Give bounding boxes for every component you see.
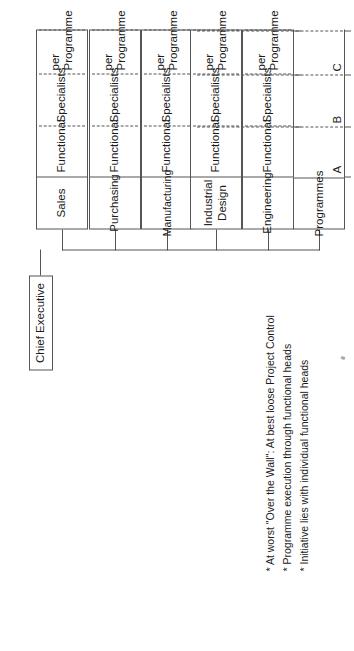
divider-dashed-a-purchasing: [92, 125, 138, 126]
programmes-label: Programmes: [313, 170, 325, 236]
tree-branch-industrial-design: [216, 228, 217, 250]
divider-dashed-b-manufacturing: [144, 73, 190, 74]
programme-divider-c: [197, 30, 343, 31]
cell-per-programme-industrial-design: per Programme: [191, 28, 241, 74]
cell-functional-sales: Functional: [37, 126, 87, 176]
programme-row-c: C: [293, 29, 345, 75]
programme-tick-a: [344, 126, 351, 127]
department-row-purchasing: Purchasing Functional Specialists per Pr…: [89, 29, 141, 229]
cell-per-programme-sales: per Programme: [37, 28, 87, 74]
diagram-canvas: Chief Executive Sales Functional Special…: [0, 0, 354, 651]
department-row-industrial-design: Industrial Design Functional Specialists…: [190, 29, 242, 229]
programme-divider-a: [197, 126, 343, 127]
cell-per-programme-purchasing: per Programme: [90, 28, 140, 74]
programme-row-b-label: B: [331, 115, 343, 123]
department-name-industrial-design: Industrial Design: [191, 176, 241, 228]
tree-branch-sales: [62, 228, 63, 250]
cell-functional-manufacturing: Functional: [142, 126, 192, 176]
divider-dashed-c-sales: [39, 29, 85, 30]
divider-dashed-b-sales: [39, 73, 85, 74]
department-name-sales: Sales: [37, 176, 87, 228]
cell-functional-purchasing: Functional: [90, 126, 140, 176]
department-row-manufacturing: Manufacturing Functional Specialists per…: [141, 29, 193, 229]
chief-executive-label: Chief Executive: [30, 276, 52, 369]
note-item: * At worst "Over the Wall": At best loos…: [262, 151, 279, 571]
programme-divider-b: [197, 74, 343, 75]
department-row-sales: Sales Functional Specialists per Program…: [36, 29, 88, 229]
department-body-industrial-design: Functional Specialists per Programme: [191, 30, 241, 176]
cell-specialists-sales: Specialists: [37, 74, 87, 126]
programme-tick-c: [344, 30, 351, 31]
cell-specialists-industrial-design: Specialists: [191, 74, 241, 126]
department-body-manufacturing: Functional Specialists per Programme: [142, 30, 192, 176]
cell-functional-industrial-design: Functional: [191, 126, 241, 176]
divider-dashed-a-manufacturing: [144, 125, 190, 126]
chief-executive-box: Chief Executive: [29, 275, 53, 370]
divider-dashed-b-purchasing: [92, 73, 138, 74]
programme-tick-b: [344, 74, 351, 75]
programme-row-c-label: C: [331, 63, 343, 71]
tree-stub: [40, 249, 41, 275]
cell-per-programme-engineering: per Programme: [243, 28, 293, 74]
department-body-purchasing: Functional Specialists per Programme: [90, 30, 140, 176]
scan-speck: [341, 355, 346, 359]
notes-list: * At worst "Over the Wall": At best loos…: [262, 151, 313, 571]
department-body-sales: Functional Specialists per Programme: [37, 30, 87, 176]
cell-per-programme-manufacturing: per Programme: [142, 28, 192, 74]
programme-row-b: B: [293, 75, 345, 127]
note-item: * Initiative lies with individual functi…: [296, 151, 313, 571]
programme-tick-start: [344, 176, 351, 177]
department-name-manufacturing: Manufacturing: [142, 176, 192, 228]
department-name-purchasing: Purchasing: [90, 176, 140, 228]
programme-axis-line: [344, 29, 345, 177]
cell-specialists-engineering: Specialists: [243, 74, 293, 126]
cell-specialists-manufacturing: Specialists: [142, 74, 192, 126]
note-item: * Programme execution through functional…: [279, 151, 296, 571]
programme-row-a-label: A: [331, 165, 343, 173]
divider-dashed-c-purchasing: [92, 29, 138, 30]
cell-specialists-purchasing: Specialists: [90, 74, 140, 126]
divider-dashed-c-manufacturing: [144, 29, 190, 30]
divider-dashed-a-sales: [39, 125, 85, 126]
